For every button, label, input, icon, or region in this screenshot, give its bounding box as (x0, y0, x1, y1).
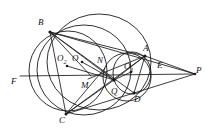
point-label-O: O (72, 54, 79, 63)
point-label-B: B (38, 18, 44, 27)
point-dot-O (81, 61, 84, 64)
point-label-C: C (59, 116, 65, 125)
chords-group (20, 32, 195, 114)
segment-DP (134, 74, 195, 93)
segment-FP (20, 74, 195, 76)
segment-BA (50, 32, 145, 56)
point-dot-B (48, 30, 51, 33)
point-dot-O2 (66, 65, 69, 68)
point-label-F: F (11, 77, 17, 86)
point-label-P: P (196, 66, 202, 75)
circle-o1-small (113, 52, 151, 94)
point-label-Q: Q (111, 87, 118, 96)
point-label-D: D (134, 95, 141, 104)
geometry-canvas (0, 0, 217, 135)
geometry-figure: B A P E O2 O N O1 F M Q D C (0, 0, 217, 135)
circle-o2-left (29, 31, 107, 111)
point-label-N: N (97, 56, 103, 65)
segment-CD (66, 93, 134, 114)
point-dot-Q (112, 78, 116, 82)
point-label-E: E (157, 61, 163, 70)
point-label-A: A (143, 44, 149, 53)
point-label-O2: O2 (57, 54, 67, 65)
point-label-O1: O1 (124, 62, 134, 73)
point-dot-A (144, 55, 147, 58)
segment-AP (145, 56, 195, 74)
segment-BC (50, 32, 66, 114)
point-label-M: M (81, 81, 89, 90)
